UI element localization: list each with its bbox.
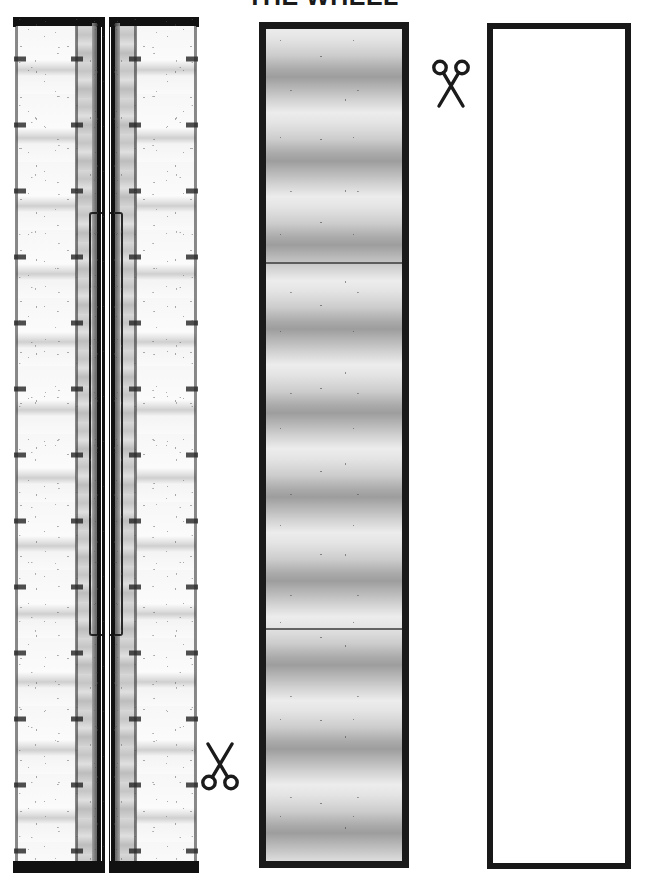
panel-banded-strip: [259, 22, 409, 868]
figure-stage: THE WHEEL: [0, 0, 646, 883]
band-noise-texture: [266, 29, 402, 861]
scissors-icon: [198, 740, 242, 792]
boundary-line-outer: [15, 26, 18, 862]
panel-cross-section: [13, 17, 199, 873]
panel-blank-rectangle: [487, 23, 631, 869]
page-title: THE WHEEL: [0, 0, 646, 6]
boundary-line-inner: [75, 26, 78, 862]
cross-section-left-half: [13, 17, 106, 873]
boundary-line-inner: [134, 26, 137, 862]
cross-section-centre-gap: [105, 17, 109, 873]
core-line-a: [97, 23, 101, 865]
core-line-a: [111, 23, 115, 865]
cross-section-right-half: [106, 17, 199, 873]
scissors-icon: [429, 58, 473, 110]
boundary-line-outer: [194, 26, 197, 862]
